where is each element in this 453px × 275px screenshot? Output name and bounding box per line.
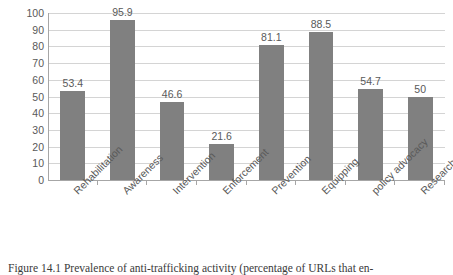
- y-axis-tick-label: 60: [16, 75, 44, 85]
- bar-value-label: 50: [395, 84, 445, 95]
- bar-value-label: 46.6: [147, 89, 197, 100]
- bar-value-label: 21.6: [197, 131, 247, 142]
- y-axis-tick-label: 50: [16, 92, 44, 102]
- y-axis-tick-label: 20: [16, 142, 44, 152]
- figure-container: 1009080706050403020100 53.495.946.621.68…: [0, 0, 453, 275]
- y-axis-tick-label: 30: [16, 125, 44, 135]
- bar-slot: 53.4: [48, 13, 98, 180]
- y-axis-tick-labels: 1009080706050403020100: [14, 0, 44, 186]
- x-axis-label-slot: Prevention: [247, 186, 297, 248]
- y-axis-tick-label: 80: [16, 41, 44, 51]
- bar-value-label: 81.1: [247, 32, 297, 43]
- bar-value-label: 53.4: [48, 78, 98, 89]
- x-axis-label-slot: Enforcement: [197, 186, 247, 248]
- y-axis-tick-label: 90: [16, 25, 44, 35]
- x-axis-label-slot: Research: [395, 186, 445, 248]
- bar-value-label: 54.7: [346, 76, 396, 87]
- bar: [358, 89, 383, 180]
- y-axis-tick-label: 0: [16, 175, 44, 185]
- figure-caption: Figure 14.1 Prevalence of anti-trafficki…: [8, 262, 448, 275]
- x-axis-label-slot: Equipping: [296, 186, 346, 248]
- y-axis-tick-label: 40: [16, 108, 44, 118]
- x-axis-label-slot: Awareness: [98, 186, 148, 248]
- x-axis-label-slot: policy advocacy: [346, 186, 396, 248]
- y-axis-tick-label: 10: [16, 158, 44, 168]
- x-axis-category-labels: RehabilitationAwarenessInterventionEnfor…: [48, 186, 445, 248]
- bar: [60, 91, 85, 180]
- y-axis-tick-label: 100: [16, 8, 44, 18]
- bar-value-label: 88.5: [296, 19, 346, 30]
- bar-value-label: 95.9: [98, 7, 148, 18]
- x-axis-label-slot: Intervention: [147, 186, 197, 248]
- bar-chart: 1009080706050403020100 53.495.946.621.68…: [0, 0, 453, 186]
- bar: [309, 32, 334, 180]
- y-axis-tick-label: 70: [16, 58, 44, 68]
- x-axis-label-slot: Rehabilitation: [48, 186, 98, 248]
- bar: [160, 102, 185, 180]
